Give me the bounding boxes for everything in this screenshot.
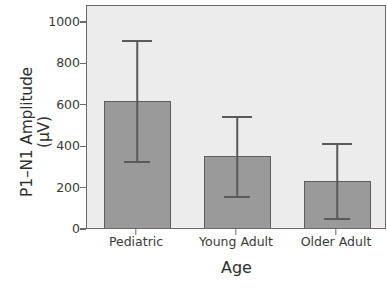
y-tick-label: 600: [20, 99, 80, 112]
error-bar-stem: [136, 41, 138, 162]
error-bar-cap-upper: [322, 143, 352, 145]
chart-figure: P1–N1 Amplitude (μV) 02004006008001000 P…: [0, 0, 387, 293]
error-bar-cap-upper: [222, 116, 252, 118]
error-bar-stem: [236, 117, 238, 197]
y-tick-label: 1000: [20, 16, 80, 29]
y-axis-title: P1–N1 Amplitude (μV): [14, 17, 58, 247]
error-bar-stem: [336, 144, 338, 219]
y-tick-label: 800: [20, 57, 80, 70]
y-tick-label: 400: [20, 140, 80, 153]
error-bar-cap-lower: [124, 161, 150, 163]
plot-area: [86, 5, 386, 229]
y-tick-label: 0: [20, 223, 80, 236]
error-bar-cap-upper: [122, 40, 152, 42]
error-bar-cap-lower: [324, 218, 350, 220]
x-tick-label-older-adult: Older Adult: [301, 234, 372, 249]
x-axis-title: Age: [86, 258, 387, 277]
x-tick-label-pediatric: Pediatric: [109, 234, 163, 249]
x-tick-label-young-adult: Young Adult: [199, 234, 273, 249]
y-axis-title-line1: P1–N1 Amplitude: [19, 67, 36, 197]
y-tick-label: 200: [20, 181, 80, 194]
error-bar-cap-lower: [224, 196, 250, 198]
